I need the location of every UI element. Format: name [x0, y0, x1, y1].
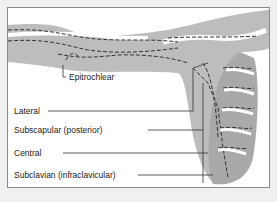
label-subscapular: Subscapular (posterior) [14, 125, 102, 135]
anatomy-illustration [8, 8, 270, 188]
label-subclavian: Subclavian (infraclavicular) [14, 170, 116, 180]
label-central: Central [14, 148, 41, 158]
diagram-frame: Epitrochlear Lateral Subscapular (poster… [7, 7, 270, 188]
label-lateral: Lateral [14, 106, 40, 116]
label-epitrochlear: Epitrochlear [69, 72, 114, 82]
